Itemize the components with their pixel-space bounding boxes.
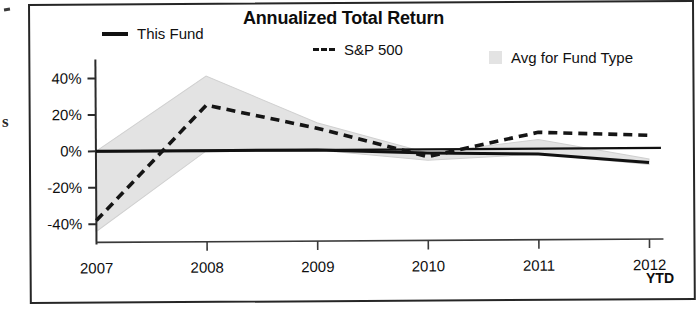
y-axis-tick-label: 20%: [52, 106, 82, 123]
x-axis-tick-label: 2011: [523, 257, 555, 274]
x-axis-tick-label: 2007: [80, 259, 113, 276]
plot-area: 40%20%0%-20%-40% 20072008200920102011201…: [0, 0, 700, 309]
x-axis-tick-labels: 200720082009201020112012: [80, 256, 666, 277]
x-axis-line: [96, 239, 663, 242]
y-axis-tick-label: -20%: [47, 179, 82, 196]
y-axis-tick-label: 0%: [60, 142, 82, 159]
y-axis-tick-labels: 40%20%0%-20%-40%: [46, 70, 82, 233]
y-axis-tick-label: -40%: [47, 215, 82, 232]
y-axis-tick-label: 40%: [51, 70, 81, 87]
x-axis-unit-label: YTD: [646, 270, 674, 286]
x-axis-tick-label: 2008: [190, 259, 223, 276]
x-axis-tick-label: 2009: [301, 258, 334, 275]
chart-container: Annualized Total Return This Fund S&P 50…: [0, 0, 700, 309]
x-axis-tick-label: 2010: [412, 257, 445, 274]
